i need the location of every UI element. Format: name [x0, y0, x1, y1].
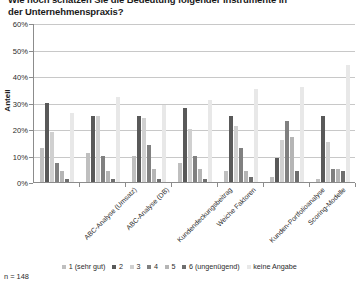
x-axis-tick-mark [355, 183, 356, 187]
bar [295, 171, 299, 182]
legend-label: keine Angabe [253, 262, 297, 271]
bar [270, 177, 274, 182]
bar [178, 163, 182, 182]
bar [198, 169, 202, 182]
bar [45, 103, 49, 183]
sample-size-note: n = 148 [4, 272, 29, 281]
bar [341, 171, 345, 182]
chart-title: Wie hoch schätzen Sie die Bedeutung folg… [8, 0, 348, 18]
legend-label: 4 [154, 262, 158, 271]
bar [132, 156, 136, 183]
plot-area [33, 24, 355, 183]
bar [193, 156, 197, 183]
x-axis-category-label: ABC-Analyse (Umsatz) [82, 186, 137, 241]
bar [280, 140, 284, 182]
legend-item[interactable]: 3 [130, 262, 141, 271]
bar [86, 153, 90, 182]
bar [249, 177, 253, 182]
bar [316, 179, 320, 182]
y-axis-tick-label: 10% [0, 152, 28, 161]
legend-label: 6 (ungenügend) [189, 262, 240, 271]
bar [326, 142, 330, 182]
bar [229, 116, 233, 182]
bar [116, 97, 120, 182]
bar [101, 156, 105, 183]
bar [137, 116, 141, 182]
bar-group [172, 24, 218, 182]
x-axis-category-label: Scoring-Modelle [306, 186, 346, 226]
bar [321, 116, 325, 182]
x-axis-tick-mark [79, 183, 80, 187]
legend-swatch-icon [112, 265, 116, 269]
bar [183, 108, 187, 182]
bar [40, 148, 44, 182]
x-axis-tick-mark [125, 183, 126, 187]
legend-item[interactable]: 4 [147, 262, 158, 271]
bar [162, 105, 166, 182]
y-axis-tick-label: 20% [0, 126, 28, 135]
legend-swatch-icon [62, 265, 66, 269]
bar [55, 163, 59, 182]
bar [224, 171, 228, 182]
bar-group [264, 24, 310, 182]
chart-legend: 1 (sehr gut)23456 (ungenügend)keine Anga… [0, 262, 359, 271]
x-axis-tick-mark [263, 183, 264, 187]
x-axis-labels: ABC-Analyse (Umsatz)ABC-Analyse (DB)Kund… [0, 183, 359, 255]
bar [239, 148, 243, 182]
bar [152, 169, 156, 182]
bar [254, 89, 258, 182]
bar [208, 100, 212, 182]
bar [60, 171, 64, 182]
bar [336, 169, 340, 182]
bar [111, 179, 115, 182]
legend-item[interactable]: keine Angabe [247, 262, 297, 271]
bar [50, 132, 54, 182]
bar [91, 116, 95, 182]
legend-label: 1 (sehr gut) [69, 262, 106, 271]
bar [188, 129, 192, 182]
y-axis-tick-label: 60% [0, 20, 28, 29]
legend-swatch-icon [147, 265, 151, 269]
bar-group [126, 24, 172, 182]
y-axis-tick-label: 50% [0, 46, 28, 55]
bar [203, 179, 207, 182]
legend-label: 2 [119, 262, 123, 271]
bar-group [310, 24, 356, 182]
bar [244, 171, 248, 182]
legend-item[interactable]: 5 [165, 262, 176, 271]
bar [234, 126, 238, 182]
chart-root: Wie hoch schätzen Sie die Bedeutung folg… [0, 0, 359, 284]
legend-item[interactable]: 2 [112, 262, 123, 271]
bar-group [80, 24, 126, 182]
bar-group [218, 24, 264, 182]
legend-item[interactable]: 6 (ungenügend) [182, 262, 239, 271]
bar [346, 65, 350, 182]
bar [331, 169, 335, 182]
bar [142, 118, 146, 182]
bar [275, 158, 279, 182]
legend-swatch-icon [130, 265, 134, 269]
bar-group [34, 24, 80, 182]
legend-label: 5 [171, 262, 175, 271]
bar [285, 121, 289, 182]
bar [106, 171, 110, 182]
legend-swatch-icon [165, 265, 169, 269]
legend-item[interactable]: 1 (sehr gut) [62, 262, 105, 271]
x-axis-tick-mark [309, 183, 310, 187]
bar [96, 116, 100, 182]
y-axis-label: Anteil [3, 78, 12, 124]
bar [147, 145, 151, 182]
bar [157, 179, 161, 182]
legend-swatch-icon [247, 265, 251, 269]
legend-label: 3 [136, 262, 140, 271]
legend-swatch-icon [182, 265, 186, 269]
bar [65, 179, 69, 182]
bar [70, 113, 74, 182]
bar [300, 87, 304, 182]
x-axis-tick-mark [217, 183, 218, 187]
x-axis-tick-mark [171, 183, 172, 187]
bar [290, 137, 294, 182]
